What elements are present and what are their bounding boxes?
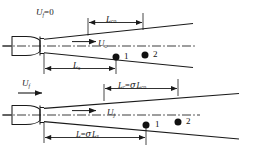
upper-jet-boundary-lines — [44, 24, 193, 68]
upper-point-1-marker — [113, 54, 120, 61]
lower-jet-boundary-lines — [44, 94, 239, 140]
lower-jet-velocity-label: Uj — [107, 108, 115, 117]
jet-coflow-schematic-figure: Uf=0 Lco Uo 1 2 Ls Uf Lc=σ Lco Uj 1 2 L=… — [0, 0, 267, 151]
upper-point-2-marker — [142, 52, 149, 59]
lower-Lc-dimension-label: Lc=σ Lco — [118, 81, 146, 90]
lower-point-1-marker — [143, 122, 150, 129]
lower-point-1-number: 1 — [155, 120, 160, 129]
lower-point-2-number: 2 — [186, 117, 191, 126]
diagram-vector-layer — [0, 0, 267, 151]
upper-point-2-number: 2 — [153, 50, 158, 59]
upper-ambient-velocity-label: Uf=0 — [36, 8, 54, 17]
upper-Ls-dimension-label: Ls — [73, 61, 80, 70]
upper-point-1-number: 1 — [124, 52, 129, 61]
lower-L-dimension-label: L=σ Ls — [76, 130, 99, 139]
upper-Lco-dimension-label: Lco — [106, 15, 116, 24]
upper-jet-velocity-label: Uo — [98, 39, 107, 48]
coflow-velocity-label: Uf — [22, 79, 30, 88]
lower-point-2-marker — [175, 119, 182, 126]
